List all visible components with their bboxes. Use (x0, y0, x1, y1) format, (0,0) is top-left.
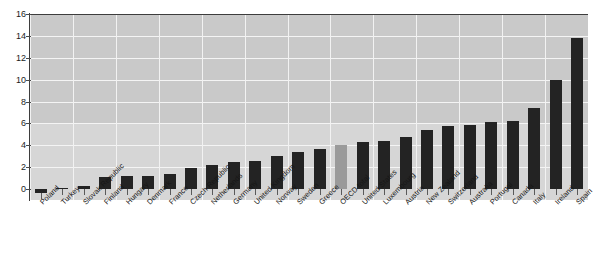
gridline-vertical (30, 14, 31, 200)
y-axis-tick (26, 36, 31, 37)
x-axis-tick (341, 189, 342, 195)
x-axis-tick (234, 189, 235, 195)
x-axis-labels: PolandTurkeySlovak RepublicFinlandHungar… (30, 200, 588, 266)
y-axis-tick (26, 189, 31, 190)
x-axis-tick (470, 189, 471, 195)
x-axis-tick (406, 189, 407, 195)
y-axis-labels: 1614121086420 (0, 0, 26, 266)
y-axis-tick (26, 102, 31, 103)
gridline-horizontal (30, 80, 588, 81)
y-axis-tick (26, 167, 31, 168)
x-axis-tick (127, 189, 128, 195)
bar (528, 108, 540, 189)
y-axis-tick-label: 10 (2, 75, 26, 84)
x-axis-tick (298, 189, 299, 195)
gridline-horizontal (30, 145, 588, 146)
y-axis-tick (26, 80, 31, 81)
x-axis-tick (62, 189, 63, 195)
gridline-vertical (73, 14, 74, 200)
y-axis-tick-label: 6 (2, 119, 26, 128)
x-axis-tick (534, 189, 535, 195)
gridline-horizontal (30, 58, 588, 59)
y-axis-tick (26, 145, 31, 146)
gridline-vertical (202, 14, 203, 200)
x-axis-tick (170, 189, 171, 195)
bar-chart: 1614121086420 PolandTurkeySlovak Republi… (0, 0, 600, 266)
gridline-vertical (159, 14, 160, 200)
y-axis-tick-label: 2 (2, 163, 26, 172)
y-axis-tick-label: 8 (2, 97, 26, 106)
x-axis-tick (191, 189, 192, 195)
x-axis-tick (556, 189, 557, 195)
y-axis-tick-label: 16 (2, 10, 26, 19)
y-axis-tick-label: 14 (2, 31, 26, 40)
y-axis-tick-label: 4 (2, 141, 26, 150)
gridline-horizontal (30, 123, 588, 124)
y-axis-tick-label: 0 (2, 185, 26, 194)
gridline-vertical (245, 14, 246, 200)
x-axis-tick (255, 189, 256, 195)
x-axis-tick (384, 189, 385, 195)
x-axis-tick (320, 189, 321, 195)
bar (550, 80, 562, 189)
x-axis-tick (513, 189, 514, 195)
x-axis-tick (212, 189, 213, 195)
x-axis-tick (363, 189, 364, 195)
y-axis-tick (26, 14, 31, 15)
y-axis-tick (26, 123, 31, 124)
bar (571, 38, 583, 189)
y-axis-tick-label: 12 (2, 53, 26, 62)
x-axis-tick (105, 189, 106, 195)
x-axis-tick (84, 189, 85, 195)
x-axis-tick (277, 189, 278, 195)
x-axis-tick (491, 189, 492, 195)
x-axis-tick (148, 189, 149, 195)
x-axis-tick (427, 189, 428, 195)
gridline-horizontal (30, 102, 588, 103)
y-axis-tick (26, 58, 31, 59)
bar (421, 130, 433, 189)
x-axis-tick (448, 189, 449, 195)
gridline-vertical (330, 14, 331, 200)
gridline-vertical (416, 14, 417, 200)
gridline-vertical (545, 14, 546, 200)
x-axis-tick (577, 189, 578, 195)
bar (507, 121, 519, 189)
zero-line (30, 14, 588, 15)
gridline-vertical (502, 14, 503, 200)
bar (335, 145, 347, 189)
gridline-horizontal (30, 36, 588, 37)
gridline-vertical (373, 14, 374, 200)
